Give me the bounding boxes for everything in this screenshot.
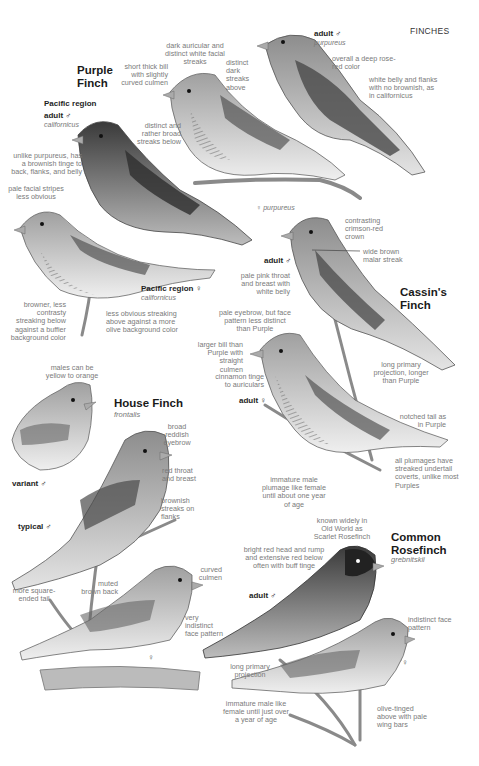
section-header: FINCHES — [410, 26, 449, 36]
note-rosefinch-immature: immature male like female until just ove… — [222, 700, 290, 725]
note-red-throat: red throat and breast — [162, 467, 204, 483]
note-undertail: all plumages have streaked undertail cov… — [395, 457, 465, 490]
note-distinct-dark-streaks: distinct dark streaks above — [226, 59, 256, 92]
bird-house-variant-male — [12, 382, 96, 470]
subspecies-grebnitskii: grebnitskii — [391, 556, 425, 564]
note-indistinct-face-rosefinch: indistinct face pattern — [408, 616, 458, 632]
note-short-bill: short thick bill with slightly curved cu… — [115, 63, 168, 88]
species-title-cassins-finch: Cassin's Finch — [400, 286, 447, 311]
note-dark-auricular: dark auricular and distinct white facial… — [165, 42, 225, 67]
note-broad-eyebrow: broad reddish eyebrow — [160, 423, 194, 448]
label-house-typical-male: typical ♂ — [18, 522, 52, 531]
note-square-tail: more square-ended tail — [10, 587, 58, 603]
label-pacific-region: Pacific region — [44, 99, 96, 108]
note-pale-facial: pale facial stripes less obvious — [6, 185, 66, 201]
species-title-house-finch: House Finch — [114, 397, 183, 410]
label-adult-male-purpureus: adult ♂ — [314, 29, 341, 38]
note-larger-bill: larger bill than Purple with straight cu… — [195, 341, 243, 374]
note-bright-red: bright red head and rump and extensive r… — [242, 546, 326, 571]
note-browner: browner, less contrasty streaking below … — [8, 301, 66, 342]
note-crimson-crown: contrasting crimson-red crown — [345, 217, 390, 242]
label-cassins-adult-male: adult ♂ — [264, 256, 291, 265]
note-less-obvious: less obvious streaking above against a m… — [106, 310, 178, 335]
label-rosefinch-female: ♀ — [402, 658, 408, 667]
label-adult-male-californicus: adult ♂ — [44, 111, 71, 120]
log-perch — [40, 666, 200, 690]
note-olive-tinged: olive-tinged above with pale wing bars — [377, 705, 427, 730]
note-yellow-orange: males can be yellow to orange — [42, 364, 102, 380]
note-pale-pink: pale pink throat and breast with white b… — [232, 272, 290, 297]
note-muted-back: muted brown back — [78, 580, 118, 596]
branch-top — [195, 179, 360, 198]
note-known-widely: known widely in Old World as Scarlet Ros… — [312, 517, 372, 542]
note-brownish-tinge: unlike purpureus, has a brownish tinge t… — [8, 152, 82, 177]
label-house-female: ♀ — [148, 653, 154, 662]
note-cinnamon: cinnamon tinge to auriculars — [212, 373, 264, 389]
note-malar: wide brown malar streak — [363, 248, 408, 264]
note-long-primary: long primary projection, longer than Pur… — [372, 361, 430, 386]
label-rosefinch-adult-male: adult ♂ — [249, 591, 276, 600]
note-cassins-immature: immature male plumage like female until … — [260, 476, 328, 509]
subspecies-californicus: californicus — [44, 121, 79, 129]
subspecies-frontalis: frontalis — [114, 411, 140, 419]
label-cassins-adult-female: adult ♀ — [239, 396, 266, 405]
label-female-purpureus: ♀ purpureus — [256, 204, 295, 211]
label-house-variant-male: variant ♂ — [12, 479, 46, 488]
note-white-belly: white belly and flanks with no brownish,… — [369, 76, 439, 101]
note-notched-tail: notched tail as in Purple — [398, 413, 446, 429]
species-title-purple-finch: Purple Finch — [77, 64, 113, 89]
note-broad-streaks: distinct and rather broad streaks below — [133, 122, 181, 147]
label-pacific-female: Pacific region ♀ — [141, 284, 202, 293]
subspecies-californicus-female: californicus — [141, 294, 176, 302]
species-title-common-rosefinch: Common Rosefinch — [391, 531, 447, 556]
note-brownish-streaks: brownish streaks on flanks — [161, 497, 199, 522]
note-indistinct-face-house: very indistinct face pattern — [185, 614, 227, 639]
note-long-primary-rosefinch: long primary projection — [228, 663, 272, 679]
note-curved-culmen: curved culmen — [198, 566, 222, 582]
note-pale-eyebrow: pale eyebrow, but face pattern less dist… — [218, 309, 292, 334]
field-guide-page: FINCHES Purple Finch dark auricular and … — [0, 0, 479, 766]
subspecies-purpureus: purpureus — [314, 39, 346, 47]
note-rose-red: overall a deep rose-red color — [332, 55, 402, 71]
